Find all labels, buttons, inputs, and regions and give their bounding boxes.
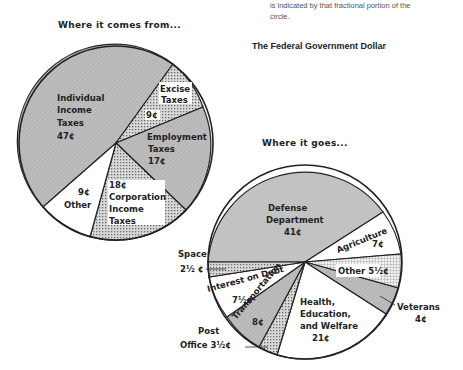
svg-text:Defense: Defense — [268, 203, 307, 213]
svg-text:Taxes: Taxes — [161, 95, 188, 105]
svg-text:Post: Post — [198, 326, 219, 336]
svg-text:7½¢: 7½¢ — [232, 295, 253, 305]
pie-charts: Individual Income Taxes 47¢ Excise Taxes… — [0, 0, 463, 370]
svg-text:7¢: 7¢ — [372, 239, 384, 249]
svg-text:Individual: Individual — [57, 93, 105, 103]
svg-text:Taxes: Taxes — [57, 118, 84, 128]
svg-text:18¢: 18¢ — [109, 180, 127, 190]
svg-text:Corporation: Corporation — [109, 192, 166, 202]
svg-text:Income: Income — [57, 105, 92, 115]
svg-text:17¢: 17¢ — [148, 156, 166, 166]
svg-text:4¢: 4¢ — [415, 314, 427, 324]
svg-text:9¢: 9¢ — [146, 110, 158, 120]
svg-text:Office 3½¢: Office 3½¢ — [180, 340, 231, 350]
svg-text:2½ ¢: 2½ ¢ — [180, 264, 204, 274]
svg-text:Space: Space — [178, 249, 207, 259]
svg-text:Health,: Health, — [300, 297, 335, 307]
svg-text:21¢: 21¢ — [312, 333, 330, 343]
svg-text:9¢: 9¢ — [78, 187, 90, 197]
svg-text:8¢: 8¢ — [252, 317, 264, 327]
svg-text:47¢: 47¢ — [57, 131, 75, 141]
svg-text:Income: Income — [109, 204, 144, 214]
svg-text:Veterans: Veterans — [397, 302, 440, 312]
svg-text:Taxes: Taxes — [109, 216, 136, 226]
svg-text:Employment: Employment — [147, 132, 207, 142]
svg-text:Excise: Excise — [160, 84, 190, 94]
svg-text:41¢: 41¢ — [284, 227, 302, 237]
svg-text:Department: Department — [266, 215, 324, 225]
svg-text:Education,: Education, — [300, 309, 351, 319]
svg-text:Other 5½¢: Other 5½¢ — [338, 266, 389, 276]
svg-text:and Welfare: and Welfare — [300, 321, 358, 331]
svg-text:Taxes: Taxes — [148, 144, 175, 154]
svg-text:Other: Other — [64, 200, 92, 210]
